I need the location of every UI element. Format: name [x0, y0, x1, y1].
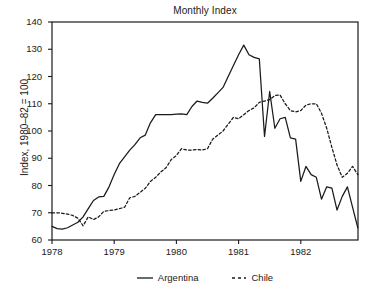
x-tick-marks: [52, 240, 301, 244]
x-tick-label: 1978: [32, 247, 72, 257]
x-tick-label: 1982: [281, 247, 321, 257]
y-tick-label: 80: [16, 181, 42, 191]
y-tick-label: 90: [16, 153, 42, 163]
y-tick-label: 70: [16, 208, 42, 218]
x-tick-label: 1981: [219, 247, 259, 257]
plot-frame: [52, 22, 358, 240]
y-tick-label: 120: [16, 72, 42, 82]
legend-label-argentina: Argentina: [158, 272, 199, 283]
series-line-chile: [52, 95, 358, 226]
y-tick-label: 110: [16, 99, 42, 109]
x-tick-label: 1980: [156, 247, 196, 257]
legend-line-dashed-icon: [231, 274, 247, 282]
data-series-lines: [52, 45, 358, 229]
chart-legend: Argentina Chile: [52, 272, 358, 283]
monthly-index-chart: Monthly Index Index, 1980–82 = 100 14013…: [0, 0, 372, 297]
legend-item-argentina: Argentina: [137, 272, 199, 283]
legend-item-chile: Chile: [231, 272, 274, 283]
legend-label-chile: Chile: [252, 272, 274, 283]
y-tick-label: 100: [16, 126, 42, 136]
series-line-argentina: [52, 45, 358, 229]
legend-line-solid-icon: [137, 274, 153, 282]
y-tick-label: 130: [16, 44, 42, 54]
y-tick-label: 140: [16, 17, 42, 27]
x-tick-label: 1979: [94, 247, 134, 257]
y-tick-label: 60: [16, 235, 42, 245]
axes: [52, 22, 358, 240]
